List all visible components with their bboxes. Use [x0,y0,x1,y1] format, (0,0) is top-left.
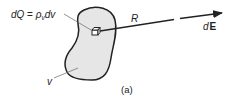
field-arrow [180,13,222,19]
volume-element-cube-icon [92,28,100,36]
figure-caption: (a) [121,84,133,95]
charge-label: dQ = ρvdv [11,9,56,21]
field-label: dE [203,21,217,32]
volume-label: v [47,76,53,87]
charge-distribution-diagram: dQ = ρvdv R dE v (a) [0,0,231,103]
volume-region [65,7,116,80]
distance-label: R [131,13,138,24]
